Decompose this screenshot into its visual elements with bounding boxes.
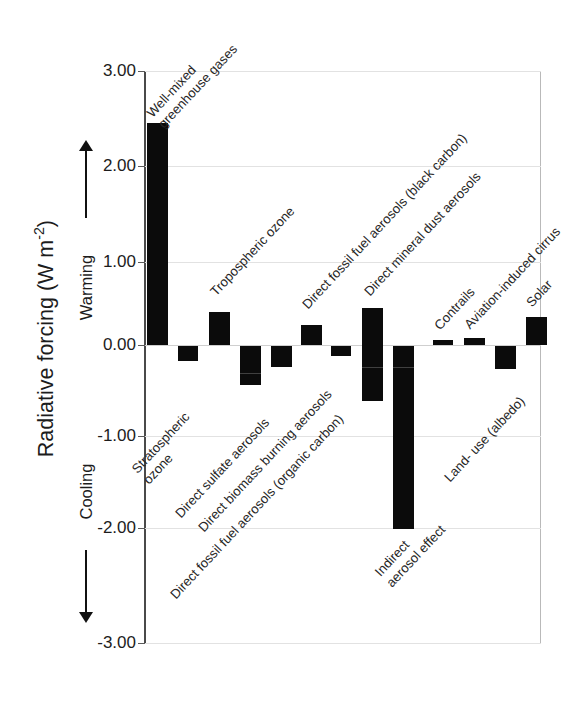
category-label-line: Aviation-induced cirrus bbox=[461, 224, 563, 332]
gridline-minus3: -3.00 bbox=[145, 643, 541, 644]
category-label-tropospheric-ozone: Tropospheric ozone bbox=[207, 204, 298, 300]
tick-label-2: 2.00 bbox=[103, 156, 136, 176]
tick-minus1 bbox=[138, 436, 145, 437]
tick-label-0: 0.00 bbox=[103, 335, 136, 355]
tick-3 bbox=[138, 71, 145, 72]
y-axis-title-block: Radiative forcing (W m-2) bbox=[0, 0, 60, 706]
bar-direct-sulfate-aerosols bbox=[240, 346, 261, 385]
gridline-2: 2.00 bbox=[145, 166, 541, 167]
bar-direct-biomass-burning-aerosols bbox=[271, 346, 292, 367]
category-label-well-mixed-greenhouse-gases: Well-mixed greenhouse gases bbox=[144, 31, 241, 132]
bar-well-mixed-greenhouse-gases bbox=[147, 123, 168, 345]
cooling-arrow-line bbox=[85, 550, 87, 612]
arrow-down-icon bbox=[79, 612, 93, 623]
tick-label-minus2: -2.00 bbox=[97, 518, 136, 538]
tick-label-minus1: -1.00 bbox=[97, 426, 136, 446]
bar-land-use-albedo bbox=[495, 346, 516, 369]
warming-annotation: Warming bbox=[66, 140, 106, 320]
bar-solar bbox=[526, 317, 547, 345]
bar-direct-mineral-dust-aerosols bbox=[362, 308, 383, 401]
bar-seam bbox=[393, 367, 414, 368]
bar-direct-fossil-fuel-aerosols-organic-carbon bbox=[331, 346, 351, 356]
category-label-land-use-albedo: Land- use (albedo) bbox=[441, 394, 528, 486]
y-axis-title-close: ) bbox=[34, 220, 58, 227]
bar-direct-fossil-fuel-aerosols-black-carbon bbox=[301, 325, 322, 345]
category-label-direct-biomass-burning-aerosols: Direct biomass burning aerosols bbox=[195, 387, 335, 535]
radiative-forcing-figure: Radiative forcing (W m-2) Warming Coolin… bbox=[0, 0, 569, 706]
bar-contrails bbox=[433, 340, 453, 345]
category-label-aviation-induced-cirrus: Aviation-induced cirrus bbox=[461, 224, 563, 332]
tick-2 bbox=[138, 166, 145, 167]
tick-label-minus3: -3.00 bbox=[97, 633, 136, 653]
category-label-line: Land- use (albedo) bbox=[441, 394, 528, 486]
plot-border-right bbox=[540, 71, 541, 644]
tick-label-3: 3.00 bbox=[103, 61, 136, 81]
bar-aviation-induced-cirrus bbox=[464, 338, 485, 345]
tick-minus3 bbox=[138, 643, 145, 644]
y-axis-title: Radiative forcing (W m-2) bbox=[31, 79, 58, 599]
y-axis-title-exponent: -2 bbox=[31, 227, 47, 240]
category-label-line: Direct biomass burning aerosols bbox=[195, 387, 335, 535]
tick-minus2 bbox=[138, 528, 145, 529]
tick-0 bbox=[138, 345, 145, 346]
category-label-stratospheric-ozone: Stratospheric ozone bbox=[129, 409, 205, 487]
category-label-line: Tropospheric ozone bbox=[207, 204, 298, 300]
bar-seam bbox=[362, 367, 383, 368]
bar-seam bbox=[240, 373, 261, 374]
bar-stratospheric-ozone bbox=[178, 346, 198, 361]
bar-tropospheric-ozone bbox=[209, 312, 230, 345]
warming-label: Warming bbox=[77, 198, 96, 378]
y-axis-title-main: Radiative forcing (W m bbox=[34, 240, 58, 457]
tick-1 bbox=[138, 262, 145, 263]
tick-label-1: 1.00 bbox=[103, 252, 136, 272]
bar-indirect-aerosol-effect bbox=[393, 346, 414, 529]
plot-area: 3.00 2.00 1.00 0.00 -1.00 -2.00 -3.00 bbox=[145, 71, 541, 644]
